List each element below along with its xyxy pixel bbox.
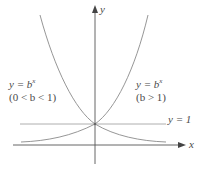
y-axis-label: y	[100, 3, 105, 16]
left-curve-condition: (0 < b < 1)	[9, 91, 56, 104]
x-axis-label-text: x	[189, 138, 194, 150]
right-curve-eq-text: y = b	[136, 78, 159, 90]
left-curve-eq-text: y = b	[9, 78, 32, 90]
hline-label: y = 1	[168, 113, 191, 126]
hline-label-text: y = 1	[168, 113, 191, 125]
x-axis-arrow-icon	[178, 142, 186, 148]
right-curve-equation: y = bx	[136, 75, 166, 91]
right-curve-exp: x	[159, 77, 162, 85]
x-axis-label: x	[189, 138, 194, 151]
intersection-point	[94, 123, 96, 125]
left-curve-exp: x	[32, 77, 35, 85]
left-curve-equation: y = bx	[9, 75, 56, 91]
y-axis-arrow-icon	[92, 5, 98, 13]
left-curve-label: y = bx (0 < b < 1)	[9, 75, 56, 104]
y-axis-label-text: y	[100, 3, 105, 15]
right-curve-condition: (b > 1)	[136, 91, 166, 104]
right-curve-label: y = bx (b > 1)	[136, 75, 166, 104]
